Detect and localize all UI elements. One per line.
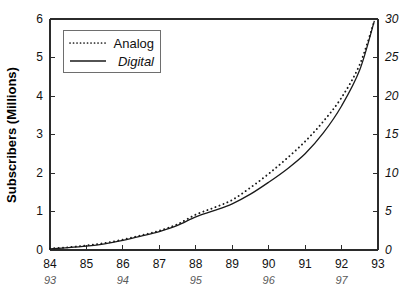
x-tick-label-secondary: 94 (117, 274, 129, 286)
y-axis-right-ticks: 051015202530 (373, 12, 399, 257)
x-tick-label: 93 (371, 257, 385, 271)
x-tick-label-secondary: 93 (44, 274, 57, 286)
x-tick-label: 85 (80, 257, 94, 271)
x-tick-label: 91 (298, 257, 312, 271)
y-tick-label-right: 30 (385, 12, 399, 26)
x-tick-label-secondary: 95 (190, 274, 203, 286)
y-tick-label-left: 0 (36, 243, 43, 257)
y-axis-title: Subscribers (Millions) (4, 67, 19, 203)
legend: Analog Digital (63, 30, 160, 72)
y-tick-label-right: 20 (384, 89, 399, 103)
x-tick-label: 87 (153, 257, 167, 271)
x-tick-label: 88 (189, 257, 203, 271)
x-tick-label-secondary: 96 (263, 274, 276, 286)
line-chart: Subscribers (Millions) 0123456 051015202… (0, 0, 416, 303)
x-tick-label-secondary: 97 (335, 274, 348, 286)
y-tick-label-right: 10 (385, 166, 399, 180)
y-tick-label-right: 15 (385, 127, 399, 141)
y-tick-label-left: 1 (36, 204, 43, 218)
x-tick-label: 86 (116, 257, 130, 271)
y-tick-label-left: 5 (36, 50, 43, 64)
y-tick-label-right: 0 (385, 243, 392, 257)
x-tick-label: 92 (335, 257, 349, 271)
legend-label-digital: Digital (118, 54, 155, 69)
x-tick-label: 84 (43, 257, 57, 271)
y-tick-label-right: 25 (384, 50, 399, 64)
x-tick-label: 90 (262, 257, 276, 271)
y-tick-label-left: 4 (36, 89, 43, 103)
x-axis-secondary-labels: 9394959697 (44, 274, 349, 286)
chart-container: Subscribers (Millions) 0123456 051015202… (0, 0, 416, 303)
legend-label-analog: Analog (114, 36, 154, 51)
y-tick-label-left: 2 (36, 166, 43, 180)
y-tick-label-left: 6 (36, 12, 43, 26)
y-axis-left-ticks: 0123456 (36, 12, 55, 257)
y-tick-label-left: 3 (36, 127, 43, 141)
x-tick-label: 89 (226, 257, 240, 271)
y-tick-label-right: 5 (385, 204, 392, 218)
x-axis-ticks: 84858687888990919293 (43, 245, 385, 271)
